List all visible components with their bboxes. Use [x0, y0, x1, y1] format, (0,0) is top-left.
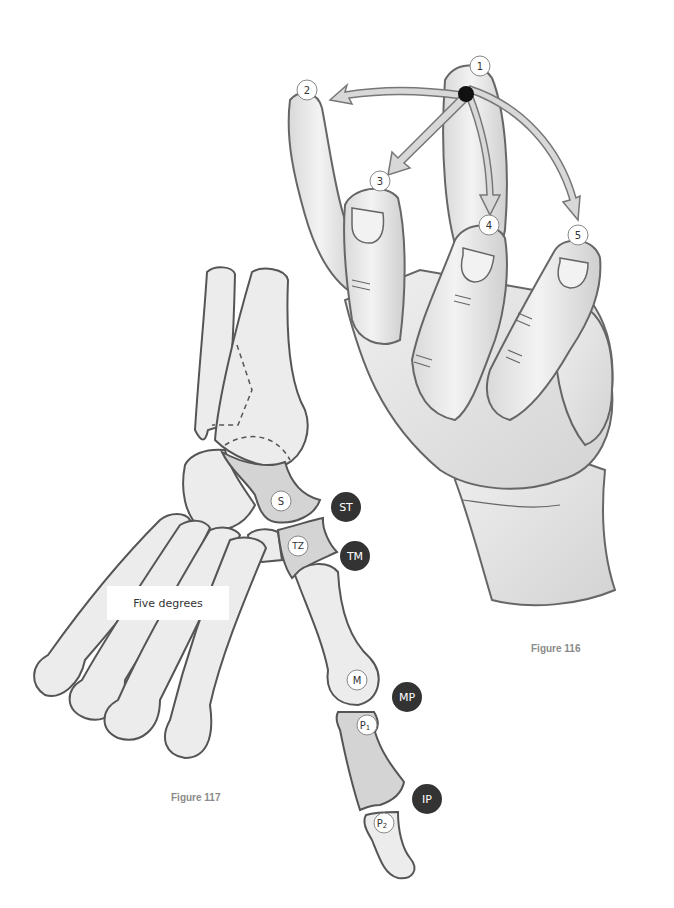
- joint-badge-tm: TM: [340, 541, 370, 571]
- svg-text:5: 5: [575, 230, 581, 241]
- five-degrees-annotation: Five degrees: [107, 586, 229, 620]
- label-scaphoid: S: [271, 491, 291, 511]
- label-proximal-phalanx: P1: [357, 715, 377, 735]
- hand-illustration: [289, 65, 615, 605]
- joint-badge-ip: IP: [412, 784, 442, 814]
- svg-text:MP: MP: [399, 691, 415, 704]
- svg-text:ST: ST: [339, 501, 353, 514]
- wrist-bones-illustration: [34, 267, 414, 878]
- label-trapezium: TZ: [288, 536, 308, 556]
- figure-117-caption: Figure 117: [171, 792, 220, 803]
- label-metacarpal: M: [347, 670, 367, 690]
- figure-116-caption: Figure 116: [531, 643, 580, 654]
- svg-text:3: 3: [377, 176, 383, 187]
- svg-text:M: M: [353, 675, 362, 686]
- pivot-dot: [458, 86, 474, 102]
- joint-badge-mp: MP: [392, 682, 422, 712]
- label-distal-phalanx: P2: [374, 813, 394, 833]
- joint-badge-st: ST: [331, 492, 361, 522]
- illustration-canvas: 1 2 3 4 5 S TZ M P1 P2: [0, 0, 674, 908]
- marker-3: 3: [370, 171, 390, 191]
- marker-1: 1: [470, 56, 490, 76]
- marker-4: 4: [479, 215, 499, 235]
- marker-5: 5: [568, 225, 588, 245]
- svg-text:TM: TM: [346, 550, 363, 563]
- marker-2: 2: [297, 80, 317, 100]
- svg-text:4: 4: [486, 220, 492, 231]
- svg-text:S: S: [278, 496, 284, 507]
- nail-3: [352, 208, 384, 243]
- svg-text:2: 2: [304, 85, 310, 96]
- svg-text:TZ: TZ: [291, 541, 304, 551]
- arrow-to-2: [330, 85, 462, 104]
- svg-text:1: 1: [477, 61, 483, 72]
- svg-text:IP: IP: [422, 793, 432, 806]
